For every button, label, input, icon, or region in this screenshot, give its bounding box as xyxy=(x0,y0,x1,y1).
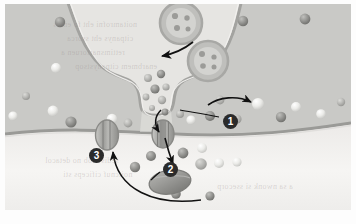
step-label-2[interactable]: 2 xyxy=(163,162,178,177)
step-label-3[interactable]: 3 xyxy=(89,148,104,163)
reuptake-transporter-protein xyxy=(96,120,119,150)
synapse-illustration xyxy=(5,4,351,210)
step-label-1[interactable]: 1 xyxy=(223,114,238,129)
synapse-diagram-panel: noitamrofni eht fo emos citpanys eht sso… xyxy=(5,4,351,210)
figure-canvas: noitamrofni eht fo emos citpanys eht sso… xyxy=(0,0,356,224)
